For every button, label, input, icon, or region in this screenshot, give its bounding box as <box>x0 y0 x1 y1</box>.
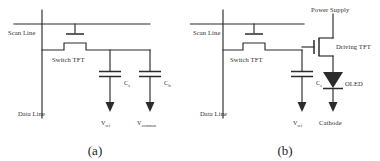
caption-b: (b) <box>190 143 380 159</box>
cap-cs-label: Cs <box>316 79 322 88</box>
scan-line-label: Scan Line <box>8 29 35 36</box>
vref-arrow-icon <box>106 102 115 112</box>
driving-tft-label: Driving TFT <box>336 43 371 50</box>
circuit-panel-b: Scan Line Data Line Switch TFT Power Sup… <box>190 0 380 161</box>
scan-line-label: Scan Line <box>193 29 220 36</box>
vcommon-label: Vcommon <box>137 119 157 128</box>
data-line-label: Data Line <box>18 110 45 117</box>
switch-tft-label: Switch TFT <box>230 56 263 63</box>
cathode-label: Cathode <box>319 119 342 126</box>
circuit-panel-a: Scan Line Data Line Switch TFT Cs Clc Vr… <box>0 0 190 161</box>
oled-label: OLED <box>345 80 363 87</box>
power-supply-label: Power Supply <box>311 6 350 13</box>
oled-diode-icon <box>323 72 343 88</box>
vref-label: Vref <box>293 119 303 128</box>
switch-tft-channel <box>223 43 302 50</box>
data-line-label: Data Line <box>200 110 227 117</box>
cap-cs-label: Cs <box>124 79 130 88</box>
caption-a: (a) <box>0 143 190 159</box>
cap-clc-label: Clc <box>164 79 171 88</box>
cathode-arrow-icon <box>329 102 338 112</box>
vcommon-arrow-icon <box>146 102 155 112</box>
vref-label: Vref <box>101 119 111 128</box>
vref-arrow-icon <box>298 102 307 112</box>
switch-tft-channel <box>42 43 150 50</box>
switch-tft-label: Switch TFT <box>52 56 85 63</box>
figure-root: Scan Line Data Line Switch TFT Cs Clc Vr… <box>0 0 380 161</box>
